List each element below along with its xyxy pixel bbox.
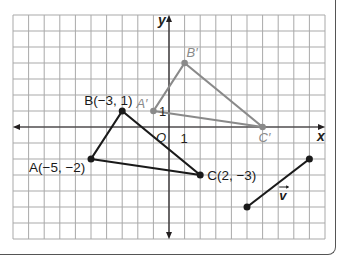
original-vertex-point (197, 172, 204, 179)
label-b: B(−3, 1) (84, 93, 132, 108)
y-axis-label: y (157, 12, 167, 28)
image-vertex-point (150, 108, 157, 115)
label-a-prime: A′ (135, 96, 148, 111)
label-b-prime: B′ (187, 45, 199, 60)
vector-end-point (306, 156, 313, 163)
label-c: C(2, −3) (207, 168, 256, 183)
coordinate-plane: xyO11A′B′C′A(−5, −2)B(−3, 1)C(2, −3)v (0, 0, 339, 263)
label-a: A(−5, −2) (29, 160, 85, 175)
label-c-prime: C′ (259, 130, 271, 145)
diagram-stage: xyO11A′B′C′A(−5, −2)B(−3, 1)C(2, −3)v (0, 0, 339, 263)
x-axis-label: x (316, 128, 326, 144)
y-axis-arrow-down-icon (166, 232, 172, 239)
x-axis-arrow-left-icon (13, 124, 20, 130)
labels: xyO11A′B′C′A(−5, −2)B(−3, 1)C(2, −3)v (29, 12, 326, 203)
original-vertex-point (119, 108, 126, 115)
vector-label: v (279, 188, 287, 203)
origin-label: O (156, 130, 166, 145)
x-tick-label: 1 (181, 131, 188, 146)
y-axis-arrow-up-icon (166, 15, 172, 22)
y-tick-label: 1 (159, 104, 166, 119)
image-vertex-point (181, 60, 188, 67)
original-vertex-point (88, 156, 95, 163)
vector-label-arrowhead-icon (286, 185, 289, 188)
vector-start-point (244, 204, 251, 211)
